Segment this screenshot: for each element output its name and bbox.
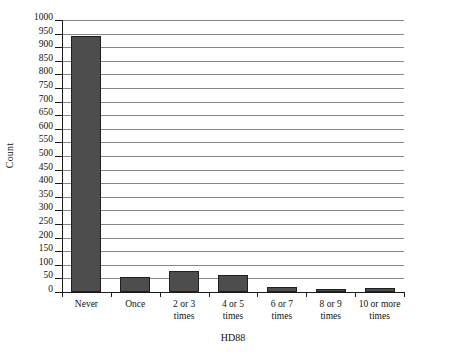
- y-tick-mark: [55, 142, 62, 143]
- x-axis-title: HD88: [62, 332, 404, 343]
- bar-slot: [257, 20, 306, 292]
- x-axis-labels: NeverOnce2 or 3 times4 or 5 times6 or 7 …: [62, 299, 404, 333]
- y-tick-mark: [55, 20, 62, 21]
- bar-slot: [306, 20, 355, 292]
- x-tick-label: Once: [111, 299, 160, 311]
- y-tick-label: 750: [39, 81, 53, 91]
- y-tick-label: 200: [39, 231, 53, 241]
- y-tick-mark: [55, 265, 62, 266]
- y-tick-label: 550: [39, 135, 53, 145]
- y-tick-label: 600: [39, 122, 53, 132]
- y-tick-mark: [55, 156, 62, 157]
- y-tick-label: 1000: [34, 13, 53, 23]
- x-tick-label: 2 or 3 times: [160, 299, 209, 322]
- bar[interactable]: [120, 277, 150, 293]
- x-tick-label: Never: [62, 299, 111, 311]
- x-tick-mark: [306, 292, 307, 297]
- x-tick-mark: [111, 292, 112, 297]
- x-tick-label: 10 or more times: [355, 299, 404, 322]
- y-tick-label: 300: [39, 203, 53, 213]
- bar-chart: Count 0501001502002503003504004505005506…: [0, 0, 450, 357]
- plot-area: [62, 20, 404, 292]
- y-tick-mark: [55, 251, 62, 252]
- y-axis-ticks: 0501001502002503003504004505005506006507…: [0, 20, 62, 292]
- y-tick-label: 850: [39, 54, 53, 64]
- x-tick-mark: [209, 292, 210, 297]
- bar[interactable]: [71, 36, 101, 292]
- y-tick-mark: [55, 102, 62, 103]
- x-tick-mark: [404, 292, 405, 297]
- x-axis-ticks: [62, 292, 404, 298]
- bar-slot: [160, 20, 209, 292]
- y-tick-mark: [55, 278, 62, 279]
- y-tick-mark: [55, 210, 62, 211]
- y-axis-line: [62, 20, 63, 293]
- bar[interactable]: [169, 271, 199, 292]
- y-tick-mark: [55, 292, 62, 293]
- bar-slot: [62, 20, 111, 292]
- y-tick-label: 700: [39, 95, 53, 105]
- y-tick-label: 400: [39, 176, 53, 186]
- y-tick-mark: [55, 238, 62, 239]
- y-tick-label: 500: [39, 149, 53, 159]
- x-tick-mark: [160, 292, 161, 297]
- y-tick-mark: [55, 129, 62, 130]
- y-tick-label: 100: [39, 258, 53, 268]
- x-tick-mark: [62, 292, 63, 297]
- x-tick-label: 6 or 7 times: [257, 299, 306, 322]
- y-tick-mark: [55, 170, 62, 171]
- y-tick-mark: [55, 197, 62, 198]
- y-tick-label: 800: [39, 67, 53, 77]
- bar-slot: [209, 20, 258, 292]
- y-tick-label: 450: [39, 163, 53, 173]
- y-tick-label: 150: [39, 244, 53, 254]
- x-tick-label: 4 or 5 times: [209, 299, 258, 322]
- y-tick-label: 350: [39, 190, 53, 200]
- y-tick-label: 0: [48, 285, 53, 295]
- bar-slot: [111, 20, 160, 292]
- y-tick-mark: [55, 183, 62, 184]
- x-tick-mark: [355, 292, 356, 297]
- y-tick-label: 900: [39, 40, 53, 50]
- x-tick-mark: [257, 292, 258, 297]
- y-tick-mark: [55, 115, 62, 116]
- y-tick-label: 50: [44, 271, 54, 281]
- y-tick-mark: [55, 61, 62, 62]
- bars-group: [62, 20, 404, 292]
- bar[interactable]: [218, 275, 248, 292]
- y-tick-label: 650: [39, 108, 53, 118]
- bar-slot: [355, 20, 404, 292]
- x-tick-label: 8 or 9 times: [306, 299, 355, 322]
- y-tick-label: 250: [39, 217, 53, 227]
- y-tick-mark: [55, 47, 62, 48]
- y-tick-mark: [55, 224, 62, 225]
- y-tick-mark: [55, 74, 62, 75]
- y-tick-mark: [55, 88, 62, 89]
- y-tick-label: 950: [39, 27, 53, 37]
- y-tick-mark: [55, 34, 62, 35]
